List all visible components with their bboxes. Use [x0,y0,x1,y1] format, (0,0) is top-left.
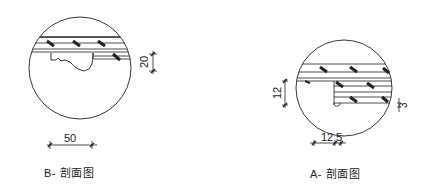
section-a-detail: 12 3 12 5 [271,40,409,146]
dimension-label-b-vertical: 20 [138,56,150,68]
dimension-label-b-horizontal: 50 [64,132,76,144]
section-b-title: B- 剖面图 [44,164,94,180]
dimension-label-a-horizontal-right: 5 [336,131,342,143]
section-a-title: A- 剖面图 [310,165,360,181]
section-b-detail: 20 50 [20,17,157,149]
dimension-label-a-horizontal-left: 12 [321,131,333,143]
hatch-marks-b [47,41,120,60]
detail-circle-b [29,17,131,119]
dimension-label-a-vertical-right: 3 [398,102,409,108]
section-drawings-canvas: 20 50 [0,0,428,189]
dimension-vertical-b [149,51,157,74]
dimension-label-a-vertical-left: 12 [271,87,283,99]
detail-circle-a [296,40,392,136]
